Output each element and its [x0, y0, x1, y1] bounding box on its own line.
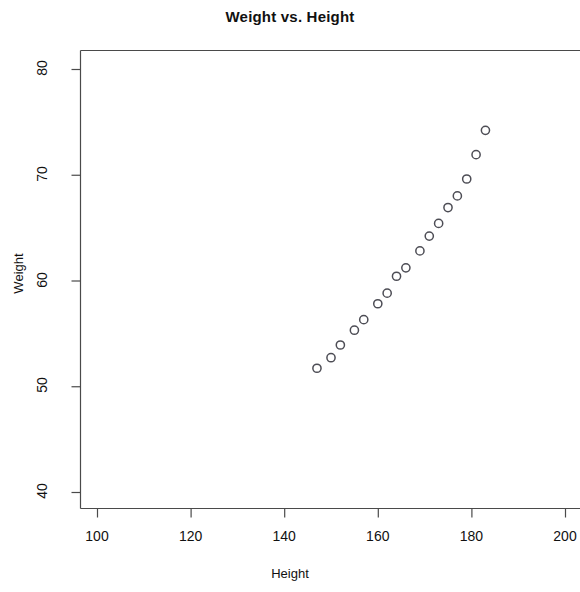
data-point — [472, 151, 480, 159]
data-point — [481, 126, 489, 134]
x-tick-label: 120 — [167, 528, 215, 544]
plot-frame — [81, 51, 580, 509]
scatter-plot-figure: Weight vs. Height Weight Height 10012014… — [0, 0, 580, 592]
y-axis-ticks — [72, 70, 81, 493]
data-point — [350, 326, 358, 334]
data-point — [425, 232, 433, 240]
plot-canvas — [0, 0, 580, 592]
y-tick-label: 40 — [34, 471, 50, 511]
x-axis-ticks — [98, 509, 566, 518]
data-point — [463, 175, 471, 183]
x-tick-label: 160 — [354, 528, 402, 544]
x-tick-label: 180 — [447, 528, 495, 544]
x-tick-label: 200 — [541, 528, 580, 544]
data-point — [374, 300, 382, 308]
data-point — [435, 219, 443, 227]
data-point — [453, 192, 461, 200]
y-tick-label: 50 — [34, 365, 50, 405]
data-point — [336, 341, 344, 349]
data-point — [416, 247, 424, 255]
x-tick-label: 140 — [260, 528, 308, 544]
y-tick-label: 70 — [34, 154, 50, 194]
x-tick-label: 100 — [73, 528, 121, 544]
data-point — [402, 264, 410, 272]
data-point — [392, 272, 400, 280]
data-point — [383, 289, 391, 297]
data-point — [327, 354, 335, 362]
y-tick-label: 80 — [34, 48, 50, 88]
data-point — [444, 203, 452, 211]
data-point — [360, 316, 368, 324]
data-point — [313, 364, 321, 372]
data-point-group — [313, 126, 490, 372]
y-tick-label: 60 — [34, 260, 50, 300]
